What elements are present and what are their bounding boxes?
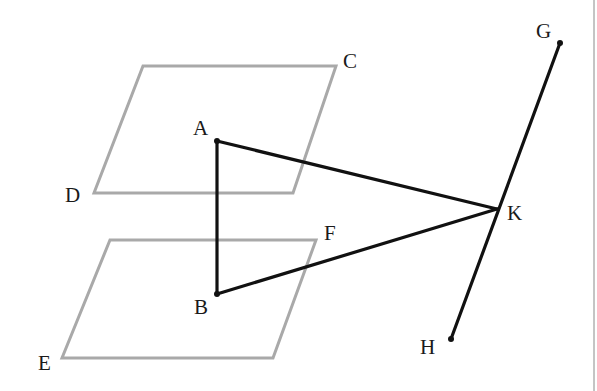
label-E: E [38,351,51,375]
point-G [557,40,563,46]
segment-GH [451,43,560,339]
geometry-diagram: A B C D E F G H K [0,0,597,391]
point-A [214,138,220,144]
upper-plane [94,66,336,193]
point-B [214,291,220,297]
label-G: G [536,19,551,43]
segment-AK [217,141,497,209]
label-D: D [65,183,80,207]
point-H [448,336,454,342]
label-F: F [324,221,336,245]
label-H: H [420,335,435,359]
lower-plane [62,240,316,358]
label-B: B [194,295,208,319]
label-A: A [193,116,209,140]
segment-BK [217,209,497,294]
label-C: C [343,49,357,73]
label-K: K [507,201,522,225]
